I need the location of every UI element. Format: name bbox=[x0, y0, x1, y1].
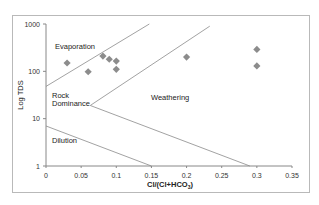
x-axis-title: Cl/(Cl+HCO3) bbox=[147, 180, 193, 190]
y-tick-label: 1 bbox=[36, 163, 40, 170]
x-tick-label: 0.15 bbox=[145, 172, 159, 179]
x-tick-label: 0.3 bbox=[252, 172, 262, 179]
data-point-diamond bbox=[63, 59, 70, 66]
y-tick-label: 100 bbox=[28, 68, 40, 75]
data-point-diamond bbox=[106, 56, 113, 63]
boundary-line-evaporation-upper bbox=[46, 24, 149, 86]
region-label-dominance: Dominance bbox=[52, 99, 90, 108]
region-label-dilution: Dilution bbox=[52, 136, 77, 145]
y-tick-label: 10 bbox=[32, 115, 40, 122]
x-tick-label: 0.1 bbox=[111, 172, 121, 179]
x-tick-label: 0.2 bbox=[182, 172, 192, 179]
x-tick-label: 0.25 bbox=[215, 172, 229, 179]
data-point-diamond bbox=[183, 53, 190, 60]
x-tick-label: 0 bbox=[44, 172, 48, 179]
data-point-diamond bbox=[253, 46, 260, 53]
data-point-diamond bbox=[113, 66, 120, 73]
y-axis-title: Log TDS bbox=[16, 80, 25, 109]
data-point-diamond bbox=[85, 68, 92, 75]
region-label-weathering: Weathering bbox=[151, 93, 189, 102]
data-point-diamond bbox=[253, 62, 260, 69]
region-label-evaporation: Evaporation bbox=[55, 42, 95, 51]
x-ticks: 00.050.10.150.20.250.30.35 bbox=[44, 166, 299, 179]
boundary-line-weathering-lower bbox=[90, 105, 250, 166]
scatter-chart: 1101001000 00.050.10.150.20.250.30.35 Ev… bbox=[0, 0, 319, 205]
data-point-diamond bbox=[113, 57, 120, 64]
x-tick-label: 0.05 bbox=[74, 172, 88, 179]
y-tick-label: 1000 bbox=[24, 21, 40, 28]
x-tick-label: 0.35 bbox=[285, 172, 299, 179]
boundary-line-dilution bbox=[46, 126, 151, 166]
y-ticks: 1101001000 bbox=[24, 21, 46, 170]
